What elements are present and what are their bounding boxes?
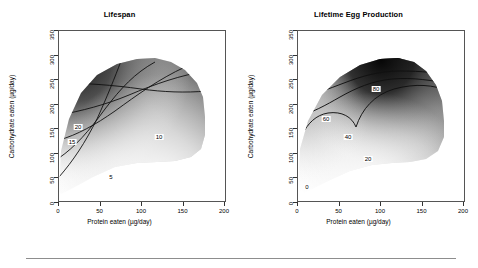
y-tick-label: 300: [288, 55, 294, 65]
y-tick-label: 300: [49, 55, 55, 65]
contour-label-40: 40: [344, 134, 353, 140]
contour-label-0: 0: [304, 184, 309, 190]
figure-canvas: Lifespan Carbohydrate eaten (µg/day) 350…: [0, 0, 478, 268]
y-axis-title-left: Carbohydrate eaten (µg/day): [6, 30, 18, 202]
plot-area-lifespan: 20 15 10 5: [58, 30, 226, 202]
y-tick-label: 350: [49, 30, 55, 40]
contour-label-80: 80: [372, 86, 381, 92]
contour-label-20: 20: [364, 156, 373, 162]
x-tick-label: 50: [96, 208, 103, 214]
plot-area-egg-production: 80 60 40 20 0: [297, 30, 465, 202]
chart-panel-egg-production: Lifetime Egg Production Carbohydrate eat…: [239, 0, 478, 250]
y-axis-title-right: Carbohydrate eaten (µg/day): [245, 30, 257, 202]
y-tick-label: 100: [288, 153, 294, 163]
y-tick-label: 350: [288, 30, 294, 40]
x-tick-label: 50: [335, 208, 342, 214]
x-tick-label: 150: [177, 208, 187, 214]
surface-svg-lifespan: [59, 31, 225, 201]
contour-label-5: 5: [108, 174, 113, 180]
panel-title-lifespan: Lifespan: [0, 10, 239, 19]
x-tick-label: 200: [458, 208, 468, 214]
contour-label-20: 20: [74, 124, 83, 130]
panel-title-egg-production: Lifetime Egg Production: [239, 10, 478, 19]
y-tick-label: 50: [288, 177, 294, 184]
x-tick-label: 200: [219, 208, 229, 214]
y-tick-label: 150: [288, 128, 294, 138]
y-tick-label: 0: [288, 202, 294, 205]
y-tick-label: 50: [49, 177, 55, 184]
x-axis-title-left: Protein eaten (µg/day): [0, 218, 239, 225]
footer-divider: [26, 258, 456, 259]
x-tick-label: 0: [56, 208, 59, 214]
y-tick-label: 100: [49, 153, 55, 163]
y-axis-title-left-text: Carbohydrate eaten (µg/day): [9, 74, 16, 157]
surface-lifespan: [59, 31, 225, 201]
x-tick-label: 150: [416, 208, 426, 214]
y-axis-title-right-text: Carbohydrate eaten (µg/day): [248, 74, 255, 157]
y-tick-label: 0: [49, 202, 55, 205]
y-tick-label: 150: [49, 128, 55, 138]
contour-label-10: 10: [155, 134, 164, 140]
y-tick-label: 250: [288, 79, 294, 89]
y-axis-left: 350 300 250 200 150 100 50 0: [44, 30, 58, 202]
y-tick-label: 250: [49, 79, 55, 89]
chart-panel-lifespan: Lifespan Carbohydrate eaten (µg/day) 350…: [0, 0, 239, 250]
contour-label-15: 15: [68, 139, 77, 145]
y-tick-label: 200: [49, 104, 55, 114]
y-axis-right: 350 300 250 200 150 100 50 0: [283, 30, 297, 202]
contour-line-0: [300, 42, 324, 45]
x-axis-left: 0 50 100 150 200: [58, 202, 226, 218]
x-axis-right: 0 50 100 150 200: [297, 202, 465, 218]
contour-label-60: 60: [322, 116, 331, 122]
x-tick-label: 0: [295, 208, 298, 214]
x-tick-label: 100: [375, 208, 385, 214]
contour-line-5: [59, 49, 187, 57]
x-tick-label: 100: [136, 208, 146, 214]
y-tick-label: 200: [288, 104, 294, 114]
x-axis-title-right: Protein eaten (µg/day): [239, 218, 478, 225]
